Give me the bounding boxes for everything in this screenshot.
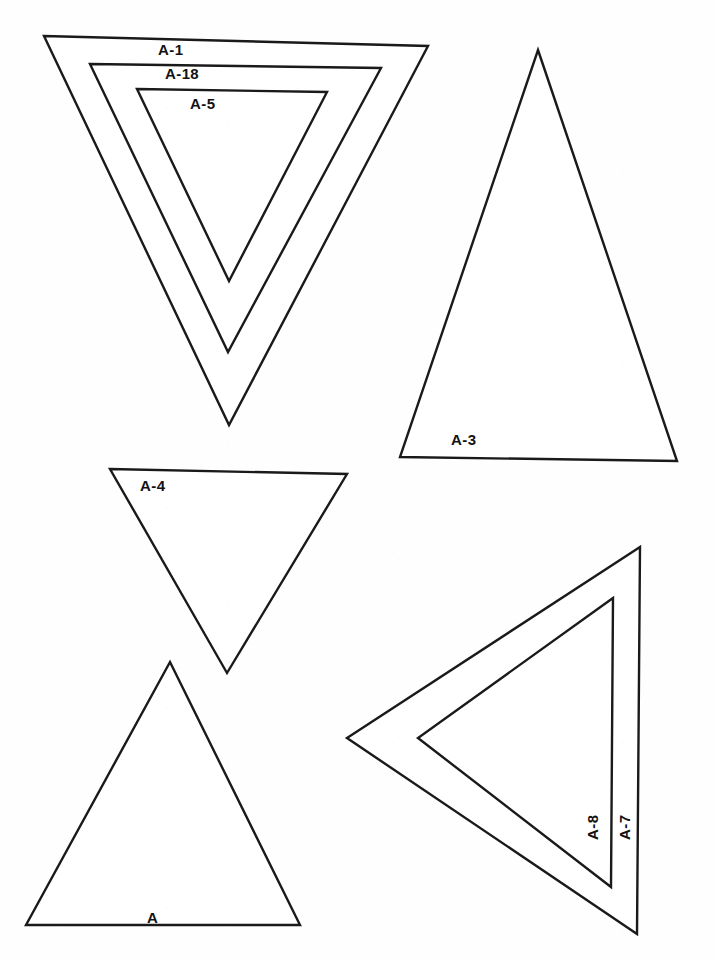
triangle-a[interactable] <box>26 662 300 925</box>
triangle-label-a-4: A-4 <box>140 478 165 493</box>
triangle-a-3[interactable] <box>400 50 677 461</box>
template-sheet: A-1A-18A-5A-3A-4AA-7A-8 <box>0 0 717 961</box>
triangle-label-a-3: A-3 <box>451 432 476 447</box>
triangle-label-a-5: A-5 <box>190 96 215 111</box>
triangle-label-a-7: A-7 <box>617 815 632 840</box>
triangle-label-a: A <box>147 910 158 925</box>
triangle-label-a-18: A-18 <box>165 66 199 81</box>
triangle-a-4[interactable] <box>110 469 347 673</box>
shape-layer <box>26 36 677 934</box>
triangle-label-a-1: A-1 <box>158 42 183 57</box>
triangle-label-a-8: A-8 <box>585 815 600 840</box>
triangle-drawing-canvas <box>0 0 717 961</box>
